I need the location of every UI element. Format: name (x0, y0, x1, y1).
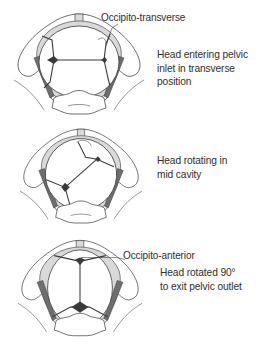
caption-line: Head rotating in (157, 154, 227, 168)
caption-line: inlet in transverse (157, 62, 248, 76)
femur-right (114, 80, 144, 110)
femur-right (114, 191, 142, 219)
caption-line: Head rotated 90° (160, 266, 242, 280)
caption-line: position (157, 75, 248, 89)
caption-rotating: Head rotating in mid cavity (157, 154, 227, 181)
caption-line: Head entering pelvic (157, 48, 248, 62)
femur-right (113, 303, 142, 332)
caption-line: to exit pelvic outlet (160, 280, 242, 294)
caption-anterior: Head rotated 90° to exit pelvic outlet (160, 266, 242, 293)
callout-occipito-anterior: Occipito-anterior (123, 250, 195, 261)
pelvis-diagram-transverse (14, 10, 144, 120)
callout-occipito-transverse: Occipito-transverse (101, 12, 185, 23)
pelvis-diagram-rotating (20, 122, 142, 232)
caption-line: mid cavity (157, 168, 227, 182)
stage-rotating: Head rotating in mid cavity (0, 118, 261, 230)
caption-transverse: Head entering pelvic inlet in transverse… (157, 48, 248, 89)
stage-transverse: Occipito-transverse Head entering pelvic… (0, 0, 261, 118)
stage-anterior: Occipito-anterior Head rotated 90° to ex… (0, 230, 261, 345)
femur-left (14, 80, 44, 110)
femur-left (20, 191, 48, 219)
femur-left (18, 303, 47, 332)
